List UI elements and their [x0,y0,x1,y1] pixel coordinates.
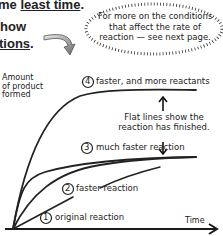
y-axis-label-line-3: formed [2,91,43,100]
curve-4-label: faster, and more reactants [96,76,210,86]
callout-text: For more on the conditions that affect t… [98,11,212,43]
annotation-line-1: Flat lines show the [118,112,210,122]
axes [5,224,217,234]
curve-2-number: 2 [65,183,70,193]
flat-lines-annotation: Flat lines show the reaction has finishe… [118,112,210,132]
y-axis-label: Amount of product formed [2,74,43,100]
x-axis-label: Time [185,216,205,225]
curve-2-label: faster reaction [76,183,138,193]
callout-line-1: For more on the conditions [98,11,212,22]
curve-3-number: 3 [84,142,89,152]
curved-arrow-icon [44,35,75,55]
callout-line-2: that affect the rate of [98,22,212,33]
curve-4-number: 4 [85,76,90,86]
curve-1-label: original reaction [55,212,124,222]
curve-4 [13,90,196,229]
curve-1-number: 1 [43,212,48,222]
reaction-curves [13,90,196,229]
annotation-line-2: reaction has finished. [118,122,210,132]
callout-line-3: reaction — see next page. [98,32,212,43]
curve-3-label: much faster reaction [96,142,185,152]
